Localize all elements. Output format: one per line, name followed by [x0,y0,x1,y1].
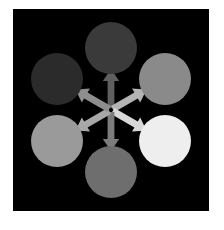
diagram-canvas [13,9,209,211]
arrow-to-bottom-node [103,112,119,151]
lower-left-node [31,115,83,167]
arrow-to-upper-left-node [75,88,110,112]
lower-right-node [139,115,191,167]
bottom-node [85,146,137,198]
node-layer [31,22,191,198]
arrow-to-lower-right-node [111,108,146,132]
arrow-to-upper-right-node [111,88,146,112]
top-node [85,22,137,74]
diagram-panel [13,9,209,211]
arrow-to-lower-left-node [75,108,110,132]
figure-root [0,0,224,230]
arrow-to-top-node [103,69,119,108]
upper-right-node [139,53,191,105]
arrow-layer [75,69,146,151]
upper-left-node [31,53,83,105]
